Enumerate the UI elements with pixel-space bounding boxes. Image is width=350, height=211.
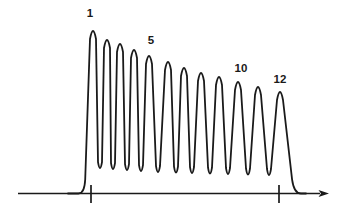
signal-curve xyxy=(68,31,306,194)
x-axis-arrowhead-icon xyxy=(319,190,330,197)
peak-label: 10 xyxy=(235,62,248,74)
peak-label: 12 xyxy=(274,73,287,85)
peak-train-figure: 151012 xyxy=(0,0,350,211)
peak-train-chart: 151012 xyxy=(0,0,350,211)
peak-label: 5 xyxy=(148,34,155,46)
peak-label: 1 xyxy=(87,7,94,19)
